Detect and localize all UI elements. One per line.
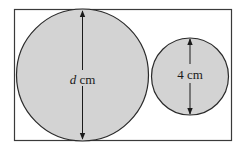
diagram-canvas: d cm 4 cm: [0, 0, 243, 150]
large-diameter-label: d cm: [70, 72, 96, 87]
small-diameter-label: 4 cm: [177, 67, 203, 82]
